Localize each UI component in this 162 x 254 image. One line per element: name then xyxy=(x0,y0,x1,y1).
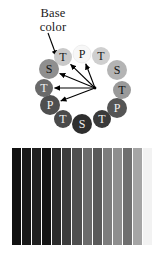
gradient-bar-2 xyxy=(22,148,31,245)
gradient-bar-12 xyxy=(123,148,132,245)
arrow-to-node-T-upper-left xyxy=(71,64,95,88)
ring-node-p-n10: P xyxy=(40,95,60,115)
gradient-bar-13 xyxy=(133,148,142,245)
ring-node-t-n7: T xyxy=(93,110,111,128)
node-circle xyxy=(93,110,111,128)
ring-node-s-n8: S xyxy=(72,114,92,134)
grayscale-gradient-bars xyxy=(12,148,152,245)
node-circle xyxy=(35,79,53,97)
arrow-group xyxy=(55,64,97,101)
gradient-bar-7 xyxy=(72,148,81,245)
radial-arrow-ring-diagram: TPTSTPTSTPTS xyxy=(0,0,162,140)
gradient-bar-9 xyxy=(93,148,102,245)
ring-node-t-n3: T xyxy=(92,47,110,65)
gradient-bar-3 xyxy=(32,148,41,245)
ring-node-t-n11: T xyxy=(35,79,53,97)
arrow-hub-point xyxy=(94,87,97,90)
node-group: TPTSTPTSTPTS xyxy=(35,45,131,134)
gradient-bar-10 xyxy=(103,148,112,245)
gradient-bar-6 xyxy=(62,148,71,245)
node-circle xyxy=(92,47,110,65)
node-circle xyxy=(40,95,60,115)
figure-root: Base color TPTSTPTSTPTS xyxy=(0,0,162,254)
ring-node-s-n4: S xyxy=(107,60,127,80)
ring-node-p-n2: P xyxy=(73,45,91,63)
gradient-bar-8 xyxy=(83,148,92,245)
gradient-bar-11 xyxy=(113,148,122,245)
gradient-bar-4 xyxy=(42,148,51,245)
gradient-bar-5 xyxy=(52,148,61,245)
node-circle xyxy=(54,110,72,128)
ring-node-s-n12: S xyxy=(39,59,59,79)
arrow-to-node-P-lower-left xyxy=(61,88,95,101)
node-circle xyxy=(107,60,127,80)
ring-node-t-n9: T xyxy=(54,110,72,128)
gradient-bar-14 xyxy=(143,148,152,245)
node-circle xyxy=(72,114,92,134)
gradient-bar-1 xyxy=(12,148,21,245)
ring-node-t-n5: T xyxy=(113,81,131,99)
node-circle xyxy=(39,59,59,79)
node-circle xyxy=(113,81,131,99)
node-circle xyxy=(73,45,91,63)
